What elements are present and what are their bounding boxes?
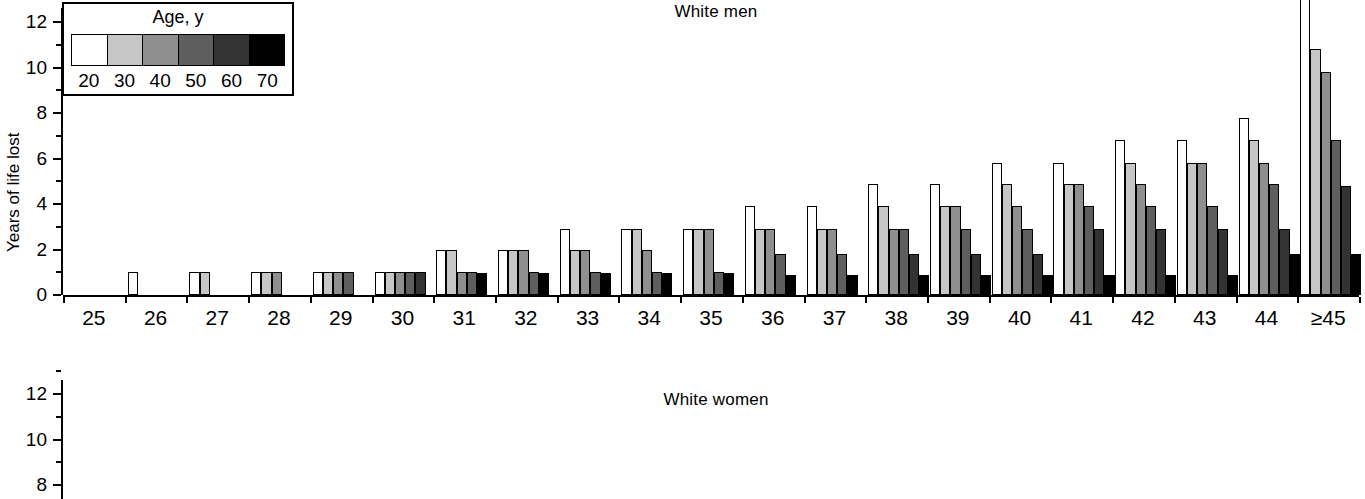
bar-44-age70	[1290, 254, 1300, 295]
bar-32-age20	[498, 250, 508, 295]
x-tick-16	[1050, 297, 1052, 303]
bar-36-age30	[755, 229, 765, 295]
x-tick-17	[1112, 297, 1114, 303]
bar-40-age20	[992, 163, 1002, 295]
bar-37-age30	[817, 229, 827, 295]
bar-44-age30	[1249, 140, 1259, 295]
bar-28-age40	[272, 272, 282, 295]
bar-43-age20	[1177, 140, 1187, 295]
legend-age: Age, y 203040506070	[62, 2, 294, 96]
x-tick-label-30: 30	[391, 306, 414, 330]
bar-30-age30	[385, 272, 395, 295]
bar-27-age30	[200, 272, 210, 295]
bar-31-age30	[446, 250, 456, 295]
legend-label-30: 30	[107, 68, 143, 94]
x-tick-13	[865, 297, 867, 303]
legend-label-70: 70	[249, 68, 285, 94]
bar-41-age30	[1064, 184, 1074, 295]
bar-37-age50	[837, 254, 847, 295]
bar-38-age20	[868, 184, 878, 295]
bar-26-age20	[128, 272, 138, 295]
legend-swatch-60	[214, 35, 250, 65]
legend-labels: 203040506070	[71, 68, 285, 94]
bar-41-age50	[1084, 206, 1094, 295]
x-tick-15	[989, 297, 991, 303]
panel-white-women: White women Years of life lost 12108	[0, 372, 1365, 499]
x-tick-21	[1359, 297, 1361, 303]
bar-38-age60	[909, 254, 919, 295]
x-tick-2	[186, 297, 188, 303]
bar-≥45-age20	[1300, 0, 1310, 295]
bar-34-age20	[621, 229, 631, 295]
bar-42-age20	[1115, 140, 1125, 295]
x-tick-label-43: 43	[1193, 306, 1216, 330]
x-tick-label-38: 38	[884, 306, 907, 330]
x-tick-label-≥45: ≥45	[1311, 306, 1346, 330]
bar-36-age70	[786, 275, 796, 295]
bar-39-age30	[940, 206, 950, 295]
bar-29-age30	[323, 272, 333, 295]
bar-42-age40	[1136, 184, 1146, 295]
bar-39-age70	[981, 275, 991, 295]
bar-44-age50	[1269, 184, 1279, 295]
bar-39-age20	[930, 184, 940, 295]
x-tick-14	[927, 297, 929, 303]
x-tick-label-34: 34	[638, 306, 661, 330]
bar-31-age40	[457, 272, 467, 295]
x-tick-label-28: 28	[267, 306, 290, 330]
bar-30-age60	[415, 272, 425, 295]
bar-31-age20	[436, 250, 446, 295]
bar-≥45-age50	[1331, 140, 1341, 295]
x-tick-label-44: 44	[1255, 306, 1278, 330]
x-tick-8	[557, 297, 559, 303]
x-tick-label-42: 42	[1131, 306, 1154, 330]
legend-swatch-30	[108, 35, 144, 65]
x-tick-label-29: 29	[329, 306, 352, 330]
legend-label-40: 40	[142, 68, 178, 94]
x-tick-label-36: 36	[761, 306, 784, 330]
bar-42-age70	[1166, 275, 1176, 295]
bar-28-age20	[251, 272, 261, 295]
x-tick-label-26: 26	[144, 306, 167, 330]
bar-35-age40	[704, 229, 714, 295]
y-tick-label-women-8: 8	[13, 474, 47, 496]
bar-34-age50	[652, 272, 662, 295]
bar-41-age60	[1094, 229, 1104, 295]
legend-swatch-50	[179, 35, 215, 65]
bar-40-age60	[1033, 254, 1043, 295]
bar-36-age20	[745, 206, 755, 295]
x-tick-4	[310, 297, 312, 303]
y-tick-minor-women-11	[56, 416, 61, 418]
legend-label-20: 20	[71, 68, 107, 94]
bar-42-age30	[1125, 163, 1135, 295]
bar-28-age30	[261, 272, 271, 295]
x-tick-label-39: 39	[946, 306, 969, 330]
bar-29-age50	[343, 272, 353, 295]
x-tick-0	[63, 297, 65, 303]
bar-40-age30	[1002, 184, 1012, 295]
y-tick-minor-women-9	[56, 461, 61, 463]
bar-38-age40	[889, 229, 899, 295]
y-tick-women-10	[53, 439, 61, 441]
bar-37-age70	[847, 275, 857, 295]
bar-34-age40	[642, 250, 652, 295]
figure-years-of-life-lost: White men Years of life lost 024681012 2…	[0, 0, 1365, 499]
bar-32-age30	[508, 250, 518, 295]
y-tick-women-8	[53, 484, 61, 486]
bar-42-age50	[1146, 206, 1156, 295]
x-tick-label-27: 27	[206, 306, 229, 330]
x-tick-12	[804, 297, 806, 303]
bar-31-age50	[467, 272, 477, 295]
x-axis-line-men	[63, 295, 1359, 297]
x-tick-7	[495, 297, 497, 303]
bar-31-age70	[477, 273, 487, 295]
bar-37-age40	[827, 229, 837, 295]
x-tick-label-32: 32	[514, 306, 537, 330]
bar-35-age70	[724, 273, 734, 295]
y-tick-women-12	[53, 393, 61, 395]
bar-41-age40	[1074, 184, 1084, 295]
bar-30-age20	[375, 272, 385, 295]
x-tick-20	[1297, 297, 1299, 303]
bar-35-age20	[683, 229, 693, 295]
bar-33-age30	[570, 250, 580, 295]
